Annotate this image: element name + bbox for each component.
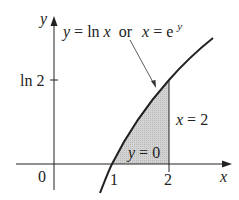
tick-label-origin: 0: [38, 168, 46, 185]
x-axis-label: x: [219, 168, 227, 185]
tick-label-ln2: ln 2: [20, 72, 44, 89]
y-axis-arrow-icon: [51, 16, 58, 26]
boundary-label-x2: x = 2: [175, 111, 208, 128]
x-axis-arrow-icon: [222, 161, 232, 168]
diagram-canvas: y x y = ln x or x = e y ln 2 0 1 2 x = 2…: [0, 0, 239, 200]
pointer-line: [130, 40, 154, 84]
y-axis-label: y: [38, 10, 48, 28]
tick-label-2: 2: [164, 171, 172, 188]
tick-label-1: 1: [110, 171, 118, 188]
curve-label: y = ln x or x = e y: [61, 20, 182, 41]
boundary-label-y0: y = 0: [126, 144, 160, 162]
pointer-arrow-icon: [151, 80, 156, 88]
